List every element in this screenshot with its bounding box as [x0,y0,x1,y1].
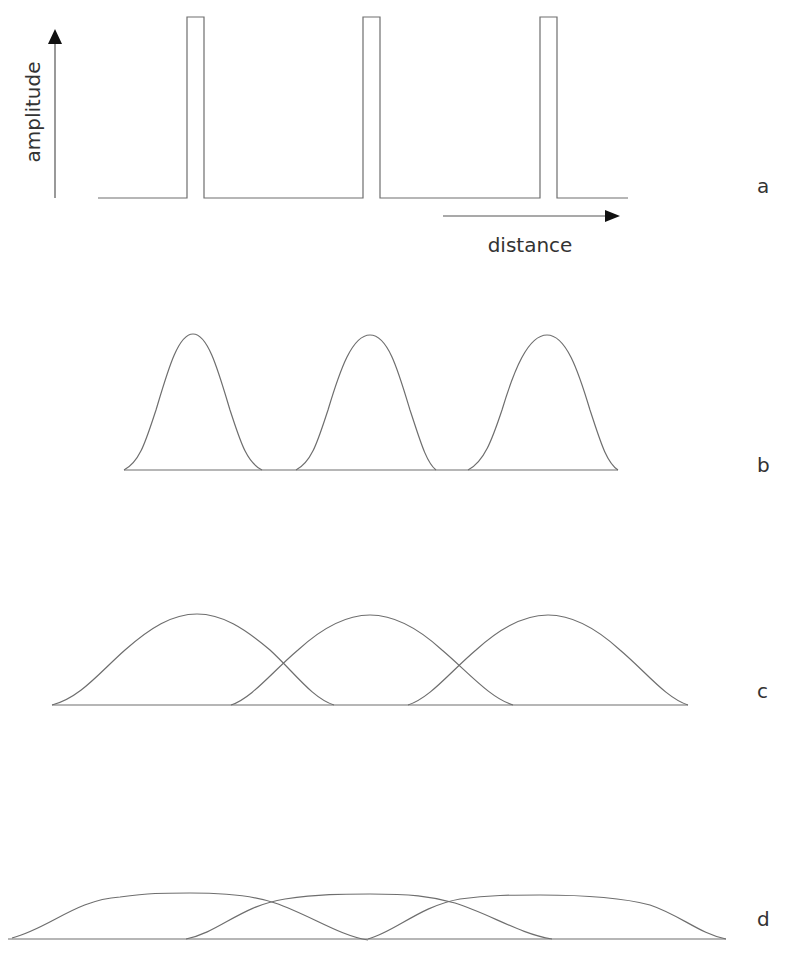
figure-canvas: amplitude distance a b c d [0,0,790,976]
bump-2 [186,894,552,939]
panel-b [124,334,618,470]
panel-a: amplitude distance [21,17,628,257]
bump-1 [12,893,368,940]
bump-2 [231,615,513,705]
panel-c [52,614,688,705]
panel-d [8,893,726,940]
panel-label-b: b [757,453,770,477]
amplitude-label: amplitude [21,61,45,162]
distance-arrowhead-icon [605,210,620,222]
bump-3 [368,895,726,939]
pulse-train [98,17,628,198]
panel-label-a: a [757,174,769,198]
panel-label-c: c [757,679,768,703]
panel-label-d: d [757,907,770,931]
bump-2 [296,335,436,470]
amplitude-arrowhead-icon [48,29,62,44]
bump-3 [408,615,688,705]
distance-label: distance [488,233,573,257]
bump-1 [124,334,262,470]
bump-3 [468,335,618,470]
bump-1 [52,614,334,705]
